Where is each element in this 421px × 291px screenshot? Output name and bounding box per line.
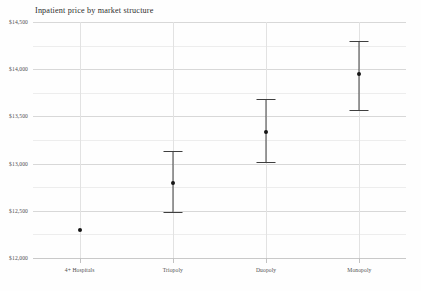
x-tick-label: Duopoly	[256, 267, 276, 273]
errorbar-cap-upper	[350, 41, 369, 42]
errorbar-cap-upper	[163, 151, 182, 152]
x-tick-mark	[266, 258, 267, 263]
data-point-marker[interactable]	[171, 181, 175, 185]
y-tick-label: $14,500	[9, 19, 28, 25]
errorbar-cap-lower	[350, 110, 369, 111]
x-tick-label: Triopoly	[163, 267, 183, 273]
gridline-minor	[33, 93, 406, 94]
data-point-marker[interactable]	[264, 130, 268, 134]
errorbar-cap-upper	[257, 99, 276, 100]
x-tick-mark	[359, 258, 360, 263]
gridline-vertical	[80, 22, 81, 258]
y-axis: $12,000$12,500$13,000$13,500$14,000$14,5…	[0, 22, 30, 258]
gridline-major	[33, 164, 406, 165]
gridline-minor	[33, 140, 406, 141]
y-tick-label: $14,000	[9, 66, 28, 72]
errorbar-cap-lower	[257, 162, 276, 163]
y-tick-label: $12,500	[9, 208, 28, 214]
gridline-major	[33, 69, 406, 70]
x-tick-mark	[173, 258, 174, 263]
y-tick-label: $12,000	[9, 255, 28, 261]
chart-figure: Inpatient price by market structure $12,…	[0, 0, 421, 291]
footer-caption	[70, 285, 350, 289]
x-tick-label: Monopoly	[347, 267, 371, 273]
y-tick-label: $13,000	[9, 161, 28, 167]
x-tick-label: 4+ Hospitals	[65, 267, 95, 273]
data-point-marker[interactable]	[357, 72, 361, 76]
plot-area	[33, 22, 406, 258]
gridline-minor	[33, 234, 406, 235]
gridline-vertical	[173, 22, 174, 258]
gridline-major	[33, 116, 406, 117]
errorbar-cap-lower	[163, 212, 182, 213]
data-point-marker[interactable]	[78, 228, 82, 232]
chart-title: Inpatient price by market structure	[35, 6, 153, 15]
x-tick-mark	[80, 258, 81, 263]
gridline-major	[33, 211, 406, 212]
gridline-minor	[33, 46, 406, 47]
gridline-major	[33, 22, 406, 23]
y-tick-label: $13,500	[9, 113, 28, 119]
x-axis-line	[33, 258, 406, 259]
gridline-minor	[33, 187, 406, 188]
